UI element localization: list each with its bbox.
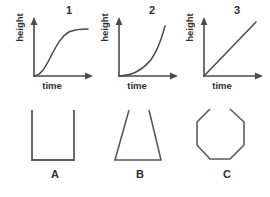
figure-root: 1 height time 2 — [0, 0, 270, 197]
container-letter-label: C — [178, 168, 270, 180]
x-axis-label: time — [192, 80, 252, 91]
y-axis-label: height — [99, 5, 110, 51]
x-axis — [34, 73, 93, 80]
y-axis — [201, 17, 208, 76]
x-axis — [204, 73, 263, 80]
container-svg-A — [8, 104, 98, 172]
container-letter-label: B — [93, 168, 185, 180]
graph-curve-s — [34, 29, 88, 76]
x-axis-label: time — [107, 80, 167, 91]
container-shape-straight-sided — [32, 110, 74, 160]
graph-panel-3: 3 height time — [178, 2, 268, 98]
container-svg-C — [178, 104, 268, 172]
container-shape-octagon — [197, 109, 244, 159]
graph-panel-1: 1 height time — [8, 2, 98, 98]
container-shape-trapezoid — [115, 110, 161, 160]
container-panel-B: B — [93, 104, 183, 196]
graph-curve-exponential — [119, 26, 165, 76]
x-axis — [119, 73, 178, 80]
container-panel-A: A — [8, 104, 98, 196]
container-panel-C: C — [178, 104, 268, 196]
container-svg-B — [93, 104, 183, 172]
y-axis-label: height — [14, 5, 25, 51]
y-axis — [31, 17, 38, 76]
y-axis-label: height — [184, 5, 195, 51]
y-axis — [116, 17, 123, 76]
x-axis-label: time — [22, 80, 82, 91]
container-letter-label: A — [8, 168, 100, 180]
graph-curve-linear — [204, 22, 256, 76]
graph-panel-2: 2 height time — [93, 2, 183, 98]
